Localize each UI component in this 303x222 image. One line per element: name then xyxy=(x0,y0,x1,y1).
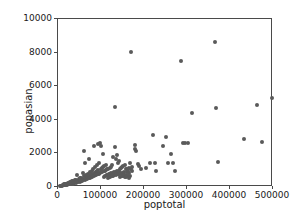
scatter-point xyxy=(161,144,165,148)
scatter-point xyxy=(110,174,114,178)
scatter-point xyxy=(83,161,87,165)
x-tick-mark xyxy=(272,186,273,189)
y-tick-mark xyxy=(54,186,57,187)
scatter-point xyxy=(112,170,116,174)
scatter-point xyxy=(102,164,106,168)
scatter-point xyxy=(67,181,71,185)
y-tick-label: 2000 xyxy=(29,147,52,157)
scatter-point xyxy=(129,50,133,54)
scatter-point xyxy=(154,169,158,173)
scatter-point xyxy=(153,161,157,165)
scatter-point xyxy=(106,176,110,180)
scatter-point xyxy=(164,135,168,139)
scatter-point xyxy=(117,169,121,173)
scatter-point xyxy=(129,167,133,171)
scatter-point xyxy=(61,183,65,187)
scatter-point xyxy=(65,182,69,186)
scatter-point xyxy=(114,170,118,174)
scatter-point xyxy=(60,184,64,188)
scatter-point xyxy=(88,176,92,180)
scatter-point xyxy=(72,181,76,185)
x-tick-mark xyxy=(100,186,101,189)
scatter-point xyxy=(125,167,129,171)
scatter-point xyxy=(114,157,118,161)
scatter-point xyxy=(116,161,120,165)
scatter-point xyxy=(66,182,70,186)
scatter-point xyxy=(127,171,131,175)
x-tick-mark xyxy=(186,186,187,189)
scatter-point xyxy=(111,174,115,178)
scatter-point xyxy=(81,171,85,175)
scatter-point xyxy=(123,163,127,167)
scatter-point xyxy=(74,178,78,182)
scatter-point xyxy=(74,181,78,185)
scatter-point xyxy=(101,165,105,169)
scatter-point xyxy=(100,166,104,170)
scatter-point xyxy=(73,178,77,182)
scatter-point xyxy=(126,174,130,178)
scatter-point xyxy=(65,183,69,187)
plot-area xyxy=(57,18,272,186)
scatter-point xyxy=(99,170,103,174)
scatter-point xyxy=(137,164,141,168)
scatter-point xyxy=(112,173,116,177)
scatter-point xyxy=(101,152,105,156)
scatter-point xyxy=(121,174,125,178)
scatter-point xyxy=(95,163,99,167)
scatter-point xyxy=(127,176,131,180)
scatter-point xyxy=(108,172,112,176)
scatter-point xyxy=(70,182,74,186)
scatter-point xyxy=(109,171,113,175)
scatter-point xyxy=(126,169,130,173)
scatter-point xyxy=(102,169,106,173)
scatter-point xyxy=(118,175,122,179)
y-axis-label: popasian xyxy=(23,88,34,133)
scatter-point xyxy=(186,141,190,145)
scatter-point xyxy=(70,179,74,183)
scatter-point xyxy=(81,178,85,182)
scatter-point xyxy=(68,182,72,186)
scatter-point xyxy=(128,174,132,178)
scatter-point xyxy=(66,181,70,185)
scatter-point xyxy=(103,174,107,178)
scatter-point xyxy=(107,175,111,179)
scatter-point xyxy=(73,180,77,184)
scatter-point xyxy=(71,181,75,185)
scatter-point xyxy=(169,152,173,156)
x-tick-mark xyxy=(229,186,230,189)
scatter-point xyxy=(100,170,104,174)
scatter-point xyxy=(84,173,88,177)
scatter-point xyxy=(91,172,95,176)
scatter-point xyxy=(120,174,124,178)
scatter-point xyxy=(85,176,89,180)
scatter-point xyxy=(148,161,152,165)
scatter-point xyxy=(117,159,121,163)
scatter-point xyxy=(95,169,99,173)
y-tick-label: 10000 xyxy=(23,13,52,23)
scatter-point xyxy=(93,173,97,177)
scatter-point xyxy=(183,141,187,145)
scatter-point xyxy=(68,181,72,185)
scatter-point xyxy=(128,161,132,165)
scatter-point xyxy=(216,160,220,164)
scatter-point xyxy=(87,176,91,180)
scatter-point xyxy=(76,180,80,184)
scatter-point xyxy=(122,173,126,177)
scatter-point xyxy=(104,168,108,172)
scatter-point xyxy=(139,167,143,171)
scatter-point xyxy=(62,182,66,186)
scatter-point xyxy=(98,141,102,145)
scatter-point xyxy=(63,182,67,186)
scatter-point xyxy=(106,167,110,171)
scatter-point xyxy=(111,171,115,175)
scatter-point xyxy=(136,162,140,166)
scatter-point xyxy=(96,142,100,146)
scatter-point xyxy=(124,173,128,177)
scatter-point xyxy=(108,175,112,179)
scatter-point xyxy=(97,172,101,176)
scatter-point xyxy=(130,165,134,169)
scatter-point xyxy=(82,149,86,153)
scatter-point xyxy=(90,169,94,173)
scatter-point xyxy=(79,176,83,180)
scatter-point xyxy=(90,175,94,179)
